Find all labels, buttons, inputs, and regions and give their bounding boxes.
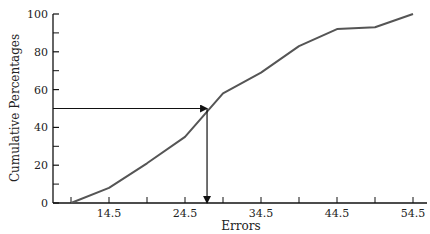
cumulative-percentage-chart: 020406080100 14.524.534.544.554.5 Cumula…: [0, 0, 430, 234]
x-axis: 14.524.534.544.554.5: [53, 197, 427, 220]
median-arrows: [53, 109, 207, 204]
y-tick-label: 0: [41, 197, 48, 210]
y-tick-label: 80: [34, 46, 48, 59]
x-tick-label: 44.5: [325, 207, 350, 220]
x-tick-label: 54.5: [401, 207, 426, 220]
x-tick-label: 14.5: [97, 207, 122, 220]
x-tick-label: 24.5: [173, 207, 198, 220]
x-axis-title: Errors: [221, 219, 260, 233]
y-tick-label: 100: [27, 8, 48, 21]
y-axis-title: Cumulative Percentages: [8, 34, 22, 182]
y-tick-label: 40: [34, 121, 48, 134]
y-tick-label: 60: [34, 84, 48, 97]
y-tick-label: 20: [34, 159, 48, 172]
